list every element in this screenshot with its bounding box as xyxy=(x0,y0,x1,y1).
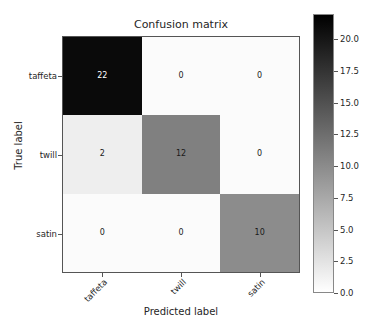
colorbar-tick-label-10.0: 10.0 xyxy=(340,161,359,171)
y-tick-mark xyxy=(58,234,62,235)
confusion-matrix-grid: 220021200010 xyxy=(63,37,299,272)
matrix-cell-taffeta-satin: 0 xyxy=(220,37,299,115)
colorbar-tick-label-12.5: 12.5 xyxy=(340,129,359,139)
heatmap-plot-area: 220021200010 xyxy=(62,36,300,273)
y-tick-label-satin: satin xyxy=(36,229,57,239)
colorbar-tick-mark xyxy=(334,293,338,294)
y-tick-mark xyxy=(58,76,62,77)
matrix-cell-satin-taffeta: 0 xyxy=(63,194,142,272)
matrix-cell-value: 22 xyxy=(97,72,107,80)
y-tick-label-taffeta: taffeta xyxy=(29,71,57,81)
colorbar-tick-label-5.0: 5.0 xyxy=(340,225,354,235)
colorbar-tick-label-20.0: 20.0 xyxy=(340,34,359,44)
x-tick-label-twill: twill xyxy=(139,277,188,326)
colorbar-tick-label-7.5: 7.5 xyxy=(340,193,354,203)
matrix-cell-twill-twill: 12 xyxy=(142,115,221,193)
colorbar-tick-label-17.5: 17.5 xyxy=(340,66,359,76)
matrix-cell-value: 0 xyxy=(257,150,262,158)
matrix-cell-value: 0 xyxy=(178,229,183,237)
matrix-cell-twill-taffeta: 2 xyxy=(63,115,142,193)
colorbar-tick-label-0.0: 0.0 xyxy=(340,288,354,298)
x-tick-mark xyxy=(102,273,103,277)
confusion-matrix-figure: Confusion matrix 220021200010 taffetatwi… xyxy=(0,0,369,329)
colorbar-tick-label-15.0: 15.0 xyxy=(340,98,359,108)
colorbar-tick-mark xyxy=(334,198,338,199)
x-tick-mark xyxy=(260,273,261,277)
x-tick-label-taffeta: taffeta xyxy=(59,277,108,326)
y-tick-mark xyxy=(58,155,62,156)
colorbar-tick-mark xyxy=(334,71,338,72)
colorbar-tick-mark xyxy=(334,230,338,231)
colorbar-gradient xyxy=(314,15,333,292)
y-axis-label: True label xyxy=(13,106,24,186)
y-tick-label-twill: twill xyxy=(40,150,57,160)
colorbar-tick-mark xyxy=(334,39,338,40)
colorbar-tick-label-2.5: 2.5 xyxy=(340,256,354,266)
matrix-cell-satin-satin: 10 xyxy=(220,194,299,272)
matrix-cell-taffeta-taffeta: 22 xyxy=(63,37,142,115)
colorbar-tick-mark xyxy=(334,103,338,104)
matrix-cell-value: 0 xyxy=(100,229,105,237)
colorbar-tick-mark xyxy=(334,261,338,262)
page-title: Confusion matrix xyxy=(62,18,300,31)
matrix-cell-value: 0 xyxy=(257,72,262,80)
matrix-cell-taffeta-twill: 0 xyxy=(142,37,221,115)
colorbar xyxy=(313,14,334,293)
x-tick-label-satin: satin xyxy=(218,277,267,326)
matrix-cell-twill-satin: 0 xyxy=(220,115,299,193)
matrix-cell-satin-twill: 0 xyxy=(142,194,221,272)
colorbar-tick-mark xyxy=(334,166,338,167)
matrix-cell-value: 10 xyxy=(255,229,265,237)
x-tick-mark xyxy=(181,273,182,277)
matrix-cell-value: 2 xyxy=(100,150,105,158)
matrix-cell-value: 0 xyxy=(178,72,183,80)
matrix-cell-value: 12 xyxy=(176,150,186,158)
x-axis-label: Predicted label xyxy=(62,306,300,317)
colorbar-tick-mark xyxy=(334,134,338,135)
